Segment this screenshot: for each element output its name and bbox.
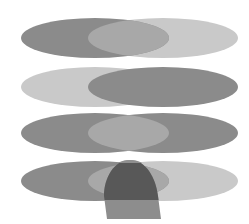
- row-2: [21, 67, 238, 107]
- diagram-svg: [0, 0, 249, 224]
- row-4: [21, 160, 249, 219]
- row-3: [21, 113, 238, 153]
- ellipse-diagram: [0, 0, 249, 224]
- row-2-right-ellipse: [88, 67, 238, 107]
- row-4-dome-tip: [118, 160, 142, 163]
- row-1: [21, 18, 238, 58]
